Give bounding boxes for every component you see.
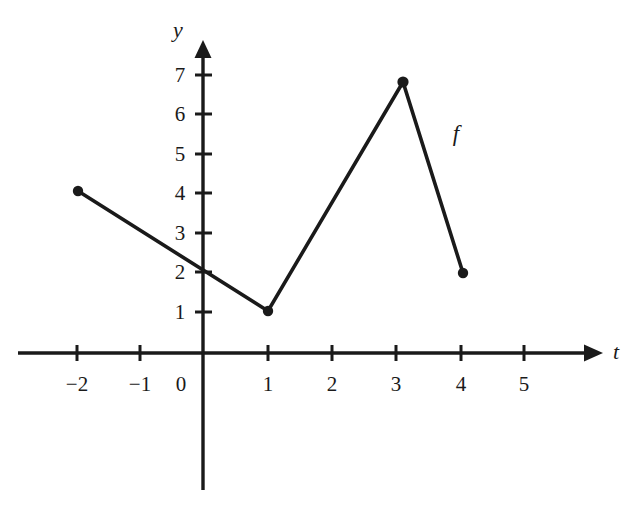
data-point-marker xyxy=(397,76,408,87)
y-tick-label-4: 4 xyxy=(175,183,186,204)
x-axis-arrowhead-icon xyxy=(584,345,603,362)
y-tick-label-6: 6 xyxy=(175,104,186,125)
x-tick-label-0: 0 xyxy=(176,374,187,395)
x-axis xyxy=(18,345,603,362)
x-tick-label-minus2: −2 xyxy=(66,374,88,395)
x-tick-label-3: 3 xyxy=(391,374,402,395)
data-point-marker xyxy=(73,186,83,196)
x-tick-label-minus1: −1 xyxy=(129,374,151,395)
function-curve-f xyxy=(73,76,468,316)
y-tick-label-7: 7 xyxy=(175,65,186,86)
y-axis-arrowhead-icon xyxy=(195,40,212,58)
curve-path xyxy=(78,82,463,311)
y-tick-label-3: 3 xyxy=(175,223,186,244)
y-tick-label-5: 5 xyxy=(175,144,186,165)
data-point-marker xyxy=(263,306,273,316)
x-tick-label-1: 1 xyxy=(263,374,274,395)
x-axis-label: t xyxy=(613,341,619,363)
x-tick-label-2: 2 xyxy=(327,374,338,395)
x-tick-label-4: 4 xyxy=(456,374,467,395)
y-tick-label-1: 1 xyxy=(175,302,186,323)
y-tick-label-2: 2 xyxy=(175,262,186,283)
data-point-marker xyxy=(458,268,468,278)
curve-label-f: f xyxy=(453,122,459,145)
coordinate-plane xyxy=(0,0,644,507)
x-tick-label-5: 5 xyxy=(519,374,530,395)
graph-figure: −2 −1 0 1 2 3 4 5 1 2 3 4 5 6 7 y t f xyxy=(0,0,644,507)
y-axis-label: y xyxy=(173,19,183,41)
